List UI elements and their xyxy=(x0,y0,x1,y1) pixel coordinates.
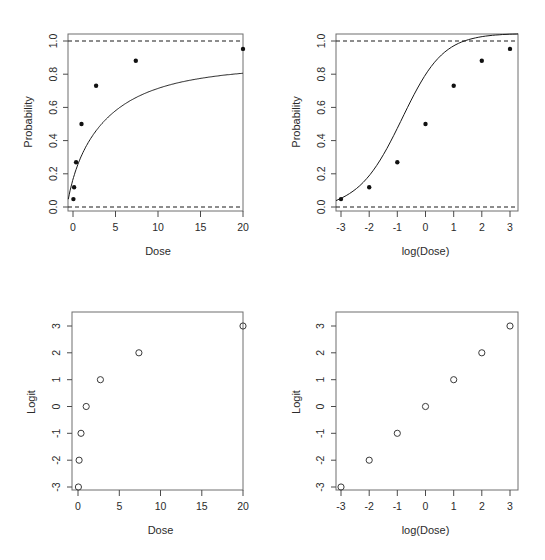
ytick-label: -3 xyxy=(314,482,326,491)
panel-top-right: 1.0 0.8 0.6 0.4 0.2 0.0 -3 -2 -1 0 1 xyxy=(272,0,545,280)
x-axis-top-left: 0 5 10 15 20 xyxy=(70,211,249,233)
xtick-label: -1 xyxy=(393,221,402,233)
ytick-label: 0.0 xyxy=(47,200,59,215)
reference-lines-top-left xyxy=(68,41,243,207)
y-axis-bottom-right: 3 2 1 0 -1 -2 -3 xyxy=(314,323,336,492)
panel-bottom-left: 3 2 1 0 -1 -2 -3 0 5 10 15 20 xyxy=(0,280,272,560)
ytick-label: 0 xyxy=(314,403,326,409)
ytick-label: -3 xyxy=(50,482,62,491)
x-axis-title-bottom-right: log(Dose) xyxy=(402,524,450,536)
plot-top-left: 1.0 0.8 0.6 0.4 0.2 0.0 0 5 10 15 20 xyxy=(0,0,272,280)
xtick-label: -3 xyxy=(336,221,345,233)
xtick-label: 0 xyxy=(423,500,429,512)
x-axis-bottom-right: -3 -2 -1 0 1 2 3 xyxy=(336,490,513,512)
y-axis-title-top-right: Probability xyxy=(290,96,302,148)
xtick-label: 20 xyxy=(237,221,249,233)
x-axis-title-top-right: log(Dose) xyxy=(402,245,450,257)
logistic-curve-top-right xyxy=(336,34,518,201)
plot-bottom-left: 3 2 1 0 -1 -2 -3 0 5 10 15 20 xyxy=(0,280,272,560)
ytick-label: -1 xyxy=(314,428,326,437)
ytick-label: -1 xyxy=(50,428,62,437)
xtick-label: 1 xyxy=(451,500,457,512)
y-axis-title-bottom-right: Logit xyxy=(290,390,302,414)
ytick-label: 3 xyxy=(314,323,326,329)
xtick-label: -3 xyxy=(336,500,345,512)
plot-box-bottom-left xyxy=(72,312,243,490)
ytick-label: 1.0 xyxy=(47,34,59,49)
ytick-label: 1 xyxy=(314,377,326,383)
panel-top-left: 1.0 0.8 0.6 0.4 0.2 0.0 0 5 10 15 20 xyxy=(0,0,272,280)
xtick-label: -1 xyxy=(393,500,402,512)
ytick-label: 0.6 xyxy=(47,100,59,115)
plot-top-right: 1.0 0.8 0.6 0.4 0.2 0.0 -3 -2 -1 0 1 xyxy=(272,0,545,280)
ytick-label: 0.4 xyxy=(47,133,59,148)
y-axis-title-bottom-left: Logit xyxy=(25,390,37,414)
x-axis-top-right: -3 -2 -1 0 1 2 3 xyxy=(336,211,513,233)
y-axis-top-right: 1.0 0.8 0.6 0.4 0.2 0.0 xyxy=(315,34,336,215)
ytick-label: -2 xyxy=(50,455,62,464)
xtick-label: 3 xyxy=(507,500,513,512)
x-axis-title-top-left: Dose xyxy=(145,245,171,257)
xtick-label: 2 xyxy=(479,500,485,512)
ytick-label: 2 xyxy=(314,350,326,356)
xtick-label: 10 xyxy=(152,221,164,233)
ytick-label: -2 xyxy=(314,455,326,464)
x-axis-bottom-left: 0 5 10 15 20 xyxy=(75,490,249,512)
xtick-label: 15 xyxy=(195,221,207,233)
plot-bottom-right: 3 2 1 0 -1 -2 -3 -3 -2 -1 0 1 xyxy=(272,280,545,560)
xtick-label: 2 xyxy=(479,221,485,233)
ytick-label: 0 xyxy=(50,403,62,409)
ytick-label: 0.0 xyxy=(315,200,327,215)
xtick-label: 5 xyxy=(116,500,122,512)
y-axis-top-left: 1.0 0.8 0.6 0.4 0.2 0.0 xyxy=(47,34,68,215)
logistic-curve-top-left xyxy=(68,73,243,199)
figure-canvas: 1.0 0.8 0.6 0.4 0.2 0.0 0 5 10 15 20 xyxy=(0,0,545,560)
ytick-label: 0.8 xyxy=(315,67,327,82)
xtick-label: 0 xyxy=(70,221,76,233)
ytick-label: 0.4 xyxy=(315,133,327,148)
ytick-label: 1 xyxy=(50,377,62,383)
data-points-bottom-right xyxy=(338,323,513,490)
xtick-label: 10 xyxy=(155,500,167,512)
ytick-label: 2 xyxy=(50,350,62,356)
xtick-label: 0 xyxy=(423,221,429,233)
y-axis-bottom-left: 3 2 1 0 -1 -2 -3 xyxy=(50,323,72,492)
ytick-label: 3 xyxy=(50,323,62,329)
ytick-label: 0.6 xyxy=(315,100,327,115)
xtick-label: 15 xyxy=(196,500,208,512)
xtick-label: 3 xyxy=(507,221,513,233)
data-points-bottom-left xyxy=(75,323,246,490)
xtick-label: 0 xyxy=(75,500,81,512)
xtick-label: 20 xyxy=(237,500,249,512)
panel-bottom-right: 3 2 1 0 -1 -2 -3 -3 -2 -1 0 1 xyxy=(272,280,545,560)
data-points-top-right xyxy=(339,47,512,202)
ytick-label: 0.2 xyxy=(315,166,327,181)
plot-box-bottom-right xyxy=(336,312,518,490)
xtick-label: 5 xyxy=(113,221,119,233)
xtick-label: 1 xyxy=(451,221,457,233)
ytick-label: 0.8 xyxy=(47,67,59,82)
ytick-label: 1.0 xyxy=(315,34,327,49)
plot-box-top-left xyxy=(68,34,243,211)
xtick-label: -2 xyxy=(365,500,374,512)
x-axis-title-bottom-left: Dose xyxy=(148,524,174,536)
y-axis-title-top-left: Probability xyxy=(22,96,34,148)
data-points-top-left xyxy=(71,47,245,202)
xtick-label: -2 xyxy=(365,221,374,233)
ytick-label: 0.2 xyxy=(47,166,59,181)
